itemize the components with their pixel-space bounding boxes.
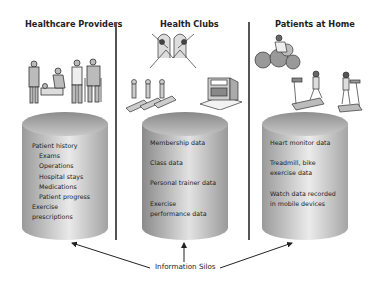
callout-arrows: [0, 0, 380, 290]
information-silos-label: Information Silos: [155, 262, 216, 271]
arrow-to-healthcare-silo: [72, 243, 150, 268]
arrow-to-home-silo: [220, 243, 292, 268]
